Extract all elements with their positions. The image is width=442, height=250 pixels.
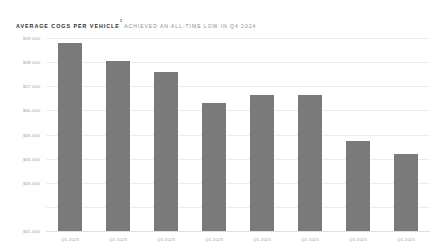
y-axis-tick-label: $31,000 — [23, 229, 40, 234]
chart-title-footnote-marker: 1 — [120, 19, 122, 23]
y-axis-tick-label: $33,000 — [23, 180, 40, 185]
y-axis-tick-label: $36,000 — [23, 108, 40, 113]
bar-group: Q1 2023 — [46, 38, 94, 231]
bar — [250, 95, 274, 231]
bar — [58, 43, 82, 231]
bar — [154, 72, 178, 231]
y-axis-tick-label: $39,000 — [23, 36, 40, 41]
y-axis-tick-label: $34,000 — [23, 156, 40, 161]
x-axis-tick-label: Q4 2023 — [205, 237, 223, 242]
bar-group: Q4 2024 — [382, 38, 430, 231]
x-axis-tick-label: Q1 2024 — [253, 237, 271, 242]
bar — [202, 103, 226, 231]
bar — [106, 61, 130, 231]
x-axis-tick-label: Q1 2023 — [61, 237, 79, 242]
x-axis-tick-label: Q4 2024 — [397, 237, 415, 242]
bar — [394, 154, 418, 231]
bar-group: Q3 2024 — [334, 38, 382, 231]
bar-group: Q3 2023 — [142, 38, 190, 231]
y-axis-tick-label: $37,000 — [23, 84, 40, 89]
bar-group: Q2 2023 — [94, 38, 142, 231]
chart-subtitle: achieved an all-time low in Q4 2024 — [124, 23, 256, 29]
cogs-per-vehicle-bar-chart: Average COGS per Vehicle1achieved an all… — [0, 0, 442, 250]
bar — [346, 141, 370, 231]
chart-title: Average COGS per Vehicle — [16, 23, 120, 29]
y-axis-tick-label: $35,000 — [23, 132, 40, 137]
bar-group: Q2 2024 — [286, 38, 334, 231]
x-axis-tick-label: Q3 2024 — [349, 237, 367, 242]
bar — [298, 95, 322, 231]
y-axis-tick-label: $38,000 — [23, 60, 40, 65]
bars: Q1 2023Q2 2023Q3 2023Q4 2023Q1 2024Q2 20… — [46, 38, 430, 231]
x-axis-tick-label: Q3 2023 — [157, 237, 175, 242]
x-axis-tick-label: Q2 2024 — [301, 237, 319, 242]
plot-area: $39,000$38,000$37,000$36,000$35,000$34,0… — [46, 38, 430, 231]
bar-group: Q1 2024 — [238, 38, 286, 231]
chart-heading: Average COGS per Vehicle1achieved an all… — [16, 15, 256, 31]
x-axis-tick-label: Q2 2023 — [109, 237, 127, 242]
gridline — [46, 231, 430, 232]
bar-group: Q4 2023 — [190, 38, 238, 231]
